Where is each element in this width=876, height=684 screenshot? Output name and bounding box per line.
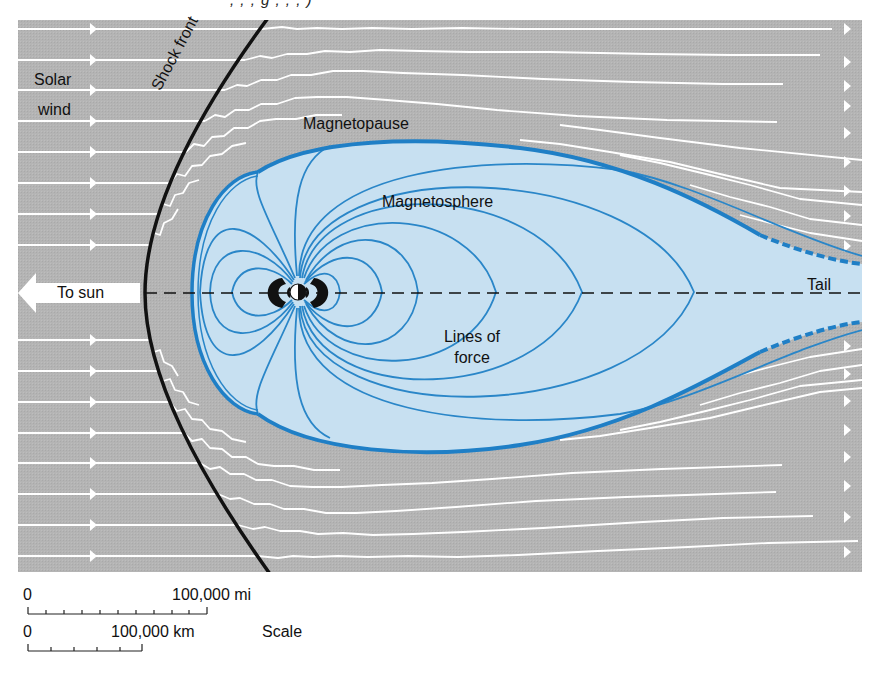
magnetosphere-diagram: , , , g , , , ) — [0, 0, 876, 684]
scale-title: Scale — [262, 623, 302, 641]
scale-bar-miles — [28, 607, 207, 614]
scale-bars — [0, 0, 876, 684]
scale-bar-km — [28, 644, 142, 651]
scale-km-end: 100,000 km — [111, 623, 195, 641]
scale-km-start: 0 — [23, 623, 32, 641]
